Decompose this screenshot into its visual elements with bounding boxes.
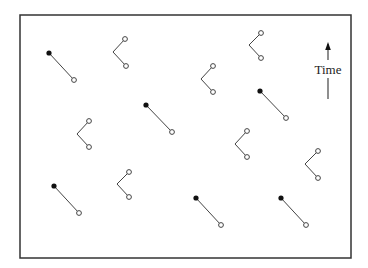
v-worldline-segments — [235, 131, 247, 157]
v-worldline-segments — [117, 172, 129, 197]
v-worldline-segments — [201, 66, 213, 92]
open-dot-icon — [124, 64, 129, 69]
straight-worldline — [143, 102, 174, 134]
v-worldline-segments — [77, 121, 89, 147]
v-worldline — [235, 129, 249, 160]
open-dot-icon — [245, 155, 250, 160]
straight-worldline — [193, 195, 223, 227]
open-dot-icon — [284, 116, 289, 121]
straight-worldline — [46, 50, 76, 82]
open-dot-icon — [72, 78, 77, 83]
filled-dot-icon — [51, 183, 56, 188]
worldline-diagram — [0, 0, 368, 268]
open-dot-icon — [259, 56, 264, 61]
worldline-segment — [260, 91, 286, 118]
open-dot-icon — [123, 37, 128, 42]
open-dot-icon — [316, 149, 321, 154]
diagram-frame — [20, 15, 351, 258]
open-dot-icon — [127, 170, 132, 175]
straight-worldlines — [46, 50, 308, 227]
open-dot-icon — [245, 129, 250, 134]
v-worldline — [77, 119, 91, 150]
v-worldline-segments — [249, 33, 261, 58]
straight-worldline — [278, 195, 308, 227]
open-dot-icon — [211, 90, 216, 95]
time-axis-label: Time — [315, 63, 342, 76]
open-dot-icon — [127, 195, 132, 200]
open-dot-icon — [87, 119, 92, 124]
open-dot-icon — [211, 64, 216, 69]
v-worldline — [249, 31, 263, 61]
straight-worldline — [51, 183, 81, 215]
arrow-up-icon — [325, 42, 331, 50]
v-worldline — [201, 64, 215, 95]
v-worldline-segments — [305, 151, 318, 178]
worldline-segment — [146, 105, 172, 132]
v-shaped-worldlines — [77, 31, 320, 200]
open-dot-icon — [219, 223, 224, 228]
filled-dot-icon — [143, 102, 148, 107]
open-dot-icon — [87, 145, 92, 150]
worldline-segment — [49, 53, 74, 80]
worldline-segment — [196, 198, 221, 225]
filled-dot-icon — [257, 88, 262, 93]
open-dot-icon — [304, 223, 309, 228]
v-worldline-segments — [113, 39, 126, 66]
v-worldline — [113, 37, 128, 69]
worldline-segment — [54, 186, 79, 213]
open-dot-icon — [77, 211, 82, 216]
worldline-segment — [281, 198, 306, 225]
filled-dot-icon — [278, 195, 283, 200]
v-worldline — [117, 170, 131, 200]
open-dot-icon — [316, 176, 321, 181]
v-worldline — [305, 149, 320, 181]
open-dot-icon — [259, 31, 264, 36]
filled-dot-icon — [193, 195, 198, 200]
open-dot-icon — [170, 130, 175, 135]
straight-worldline — [257, 88, 288, 120]
filled-dot-icon — [46, 50, 51, 55]
